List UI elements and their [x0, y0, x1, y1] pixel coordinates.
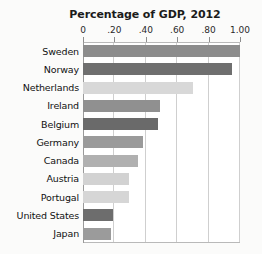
category-label: Germany [36, 137, 79, 148]
x-tick-label: 0 [80, 25, 86, 35]
bar-row [83, 42, 240, 60]
category-row: Belgium [0, 115, 79, 133]
x-tick-mark [240, 37, 241, 42]
category-row: Sweden [0, 42, 79, 60]
bar-row [83, 206, 240, 224]
category-row: Japan [0, 225, 79, 243]
category-label: Sweden [42, 46, 79, 57]
bar-chart: Percentage of GDP, 2012 0.20.40.60.801.0… [0, 0, 262, 254]
bar-row [83, 97, 240, 115]
bar[interactable] [83, 173, 129, 185]
category-label: Japan [53, 228, 79, 239]
category-label: Ireland [47, 100, 79, 111]
category-row: Ireland [0, 97, 79, 115]
category-row: Portugal [0, 188, 79, 206]
bar-row [83, 152, 240, 170]
category-row: Norway [0, 60, 79, 78]
category-label: Norway [44, 64, 79, 75]
category-row: Netherlands [0, 79, 79, 97]
category-row: Austria [0, 170, 79, 188]
bar-row [83, 225, 240, 243]
bar[interactable] [83, 191, 129, 203]
bar-row [83, 133, 240, 151]
category-label: Austria [46, 173, 79, 184]
bar-row [83, 79, 240, 97]
bar[interactable] [83, 155, 138, 167]
bar[interactable] [83, 63, 232, 75]
bar-row [83, 188, 240, 206]
x-tick-label: .20 [107, 25, 121, 35]
category-labels-container: SwedenNorwayNetherlandsIrelandBelgiumGer… [0, 42, 79, 243]
chart-title: Percentage of GDP, 2012 [0, 8, 262, 21]
bar[interactable] [83, 228, 111, 240]
bar-row [83, 115, 240, 133]
category-row: Germany [0, 133, 79, 151]
x-tick-label: .40 [139, 25, 153, 35]
bar-row [83, 60, 240, 78]
category-label: United States [17, 210, 79, 221]
category-label: Portugal [41, 192, 79, 203]
bar[interactable] [83, 118, 158, 130]
category-row: Canada [0, 152, 79, 170]
bar[interactable] [83, 100, 160, 112]
bar[interactable] [83, 136, 143, 148]
bar[interactable] [83, 45, 240, 57]
category-label: Netherlands [23, 82, 79, 93]
x-tick-label: .80 [201, 25, 215, 35]
category-label: Belgium [41, 119, 79, 130]
bar[interactable] [83, 209, 113, 221]
x-tick-label: 1.00 [230, 25, 250, 35]
bar[interactable] [83, 82, 193, 94]
category-label: Canada [44, 155, 79, 166]
bars-container [83, 42, 240, 243]
category-row: United States [0, 206, 79, 224]
x-tick-label: .60 [170, 25, 184, 35]
bar-row [83, 170, 240, 188]
